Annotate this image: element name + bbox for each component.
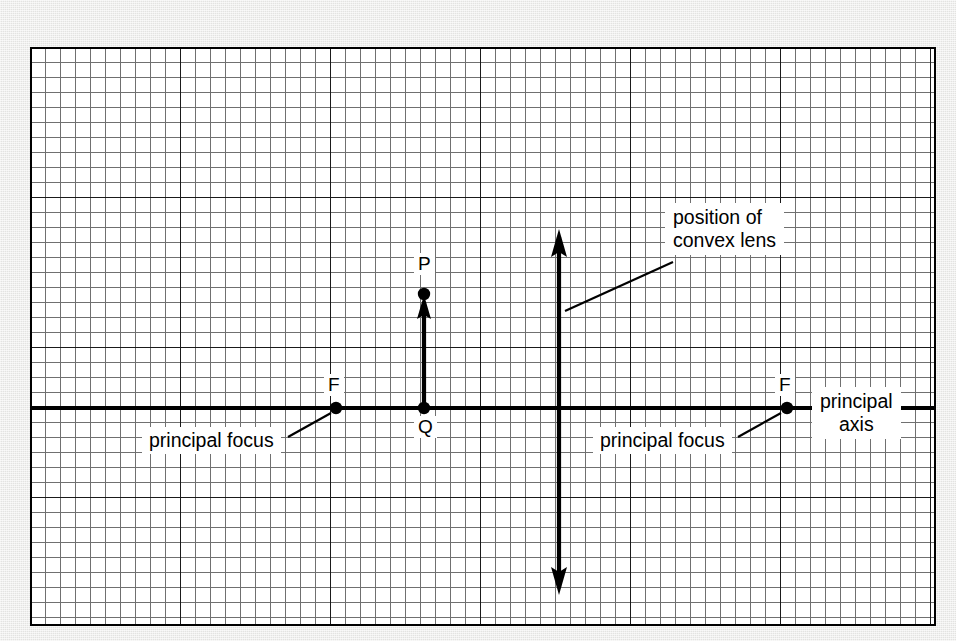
focus-right-dot — [781, 402, 793, 414]
label-point-p: P — [414, 253, 435, 275]
label-principal-axis: principal axis — [812, 387, 901, 439]
label-lens-line1: position of — [673, 206, 762, 228]
point-q-dot — [418, 402, 430, 414]
diagram-page: P Q F F principal focus principal focus … — [0, 0, 956, 641]
leader-line-lens — [565, 262, 673, 311]
label-principal-axis-line2: axis — [839, 413, 874, 435]
label-principal-focus-right: principal focus — [593, 427, 732, 454]
label-point-q: Q — [414, 416, 437, 438]
label-principal-focus-left: principal focus — [142, 427, 281, 454]
graph-paper-figure: P Q F F principal focus principal focus … — [30, 47, 936, 626]
leader-line-focus-left — [288, 413, 331, 437]
label-principal-axis-line1: principal — [820, 390, 893, 412]
label-position-of-convex-lens: position of convex lens — [665, 203, 784, 255]
label-focus-left: F — [324, 374, 344, 396]
label-focus-right: F — [775, 374, 795, 396]
focus-left-dot — [330, 402, 342, 414]
leader-line-focus-right — [738, 413, 781, 437]
label-lens-line2: convex lens — [673, 229, 776, 251]
optics-overlay — [30, 47, 936, 626]
point-p-dot — [418, 288, 430, 300]
